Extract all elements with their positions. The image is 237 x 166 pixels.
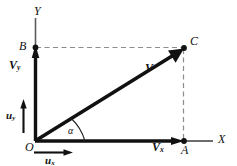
point-dot-c xyxy=(181,45,187,51)
point-label-c: C xyxy=(190,35,198,47)
unit-vector-label-uy-sub: y xyxy=(12,114,15,121)
unit-vector-label-ux: ux xyxy=(45,155,55,166)
vector-label-v: V xyxy=(145,62,153,74)
vector-label-vx-sub: x xyxy=(160,145,164,154)
origin-label: O xyxy=(25,141,34,153)
vector-label-vy-sub: y xyxy=(17,63,20,72)
unit-vector-label-uy: uy xyxy=(6,110,15,122)
unit-vector-uy-arrowhead xyxy=(20,99,26,109)
x-axis-label: X xyxy=(218,133,225,145)
figure-canvas xyxy=(0,0,237,166)
point-dot-b xyxy=(33,45,39,51)
unit-vector-label-ux-sub: x xyxy=(51,159,54,166)
y-axis-label: Y xyxy=(34,5,41,17)
vector-label-vy: Vy xyxy=(9,59,20,72)
angle-label-alpha: α xyxy=(68,126,73,136)
angle-alpha-arc xyxy=(71,119,85,142)
vector-label-vy-base: V xyxy=(9,58,17,72)
unit-vector-ux-arrowhead xyxy=(64,149,74,155)
point-label-b: B xyxy=(19,40,26,52)
point-label-a: A xyxy=(181,144,188,156)
vector-decomposition-figure: Y X B C A O V Vy Vx uy ux α xyxy=(0,0,237,166)
vector-label-vx-base: V xyxy=(152,140,160,154)
vector-v-shaft xyxy=(35,55,175,142)
vector-label-vx: Vx xyxy=(152,141,164,154)
